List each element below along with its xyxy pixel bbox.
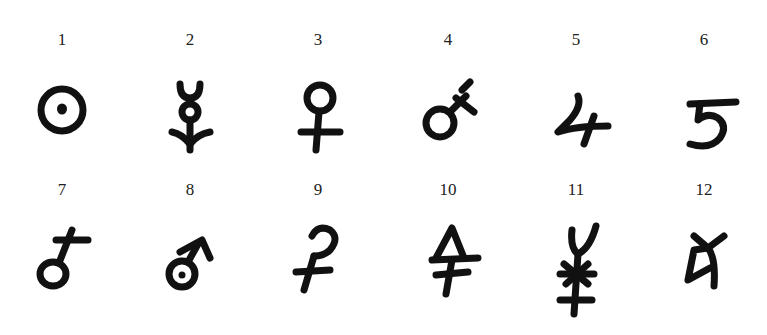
symbol-number: 6 bbox=[644, 30, 764, 50]
symbol-cell-7: 7 bbox=[2, 180, 122, 330]
circle-dot-arrow-icon bbox=[140, 218, 240, 328]
symbol-number: 7 bbox=[2, 180, 122, 200]
symbol-number: 11 bbox=[516, 180, 636, 200]
triangle-cross-icon bbox=[398, 218, 498, 328]
venus-icon bbox=[268, 68, 368, 178]
jupiter-icon bbox=[526, 68, 626, 178]
symbol-number: 12 bbox=[644, 180, 764, 200]
symbol-cell-4: 4 bbox=[388, 30, 508, 180]
mars-cross-icon bbox=[398, 68, 498, 178]
symbol-number: 4 bbox=[388, 30, 508, 50]
symbol-number: 10 bbox=[388, 180, 508, 200]
symbol-cell-2: 2 bbox=[130, 30, 250, 180]
hook-double-cross-icon bbox=[268, 218, 368, 328]
symbol-cell-6: 6 bbox=[644, 30, 764, 180]
symbol-number: 2 bbox=[130, 30, 250, 50]
symbol-cell-12: 12 bbox=[644, 180, 764, 330]
circle-cross-diagonal-icon bbox=[12, 218, 112, 328]
saturn-icon bbox=[654, 68, 754, 178]
symbol-number: 5 bbox=[516, 30, 636, 50]
symbol-cell-3: 3 bbox=[258, 30, 378, 180]
horns-star-cross-icon bbox=[526, 218, 626, 328]
symbol-number: 1 bbox=[2, 30, 122, 50]
symbol-number: 8 bbox=[130, 180, 250, 200]
symbol-cell-5: 5 bbox=[516, 30, 636, 180]
symbol-cell-1: 1 bbox=[2, 30, 122, 180]
symbol-number: 3 bbox=[258, 30, 378, 50]
symbol-cell-8: 8 bbox=[130, 180, 250, 330]
symbol-cell-11: 11 bbox=[516, 180, 636, 330]
symbol-cell-9: 9 bbox=[258, 180, 378, 330]
symbol-number: 9 bbox=[258, 180, 378, 200]
angular-hook-icon bbox=[654, 218, 754, 328]
crescent-circle-arrow-icon bbox=[140, 68, 240, 178]
symbol-cell-10: 10 bbox=[388, 180, 508, 330]
circle-with-dot-icon bbox=[12, 68, 112, 178]
